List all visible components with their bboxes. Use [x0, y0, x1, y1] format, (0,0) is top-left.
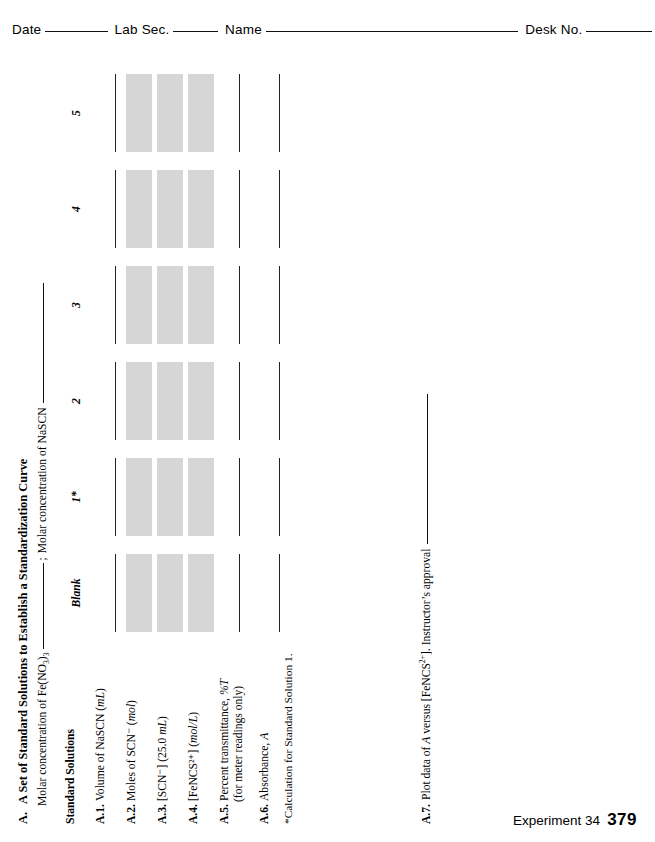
- cell-a2-1[interactable]: [126, 458, 152, 536]
- cell-a6-3[interactable]: [258, 266, 280, 344]
- nascn-label: Molar concentration of NaSCN: [36, 407, 49, 553]
- column-header-4: 4: [70, 170, 83, 248]
- standard-solutions-table: Standard Solutions Blank 1* 2 3 4 5 A.1.…: [64, 64, 292, 824]
- section-letter: A.: [16, 812, 30, 824]
- row-header-label: Standard Solutions: [64, 729, 78, 824]
- cell-a5-5[interactable]: [218, 74, 240, 152]
- section-title: A.A Set of Standard Solutions to Establi…: [16, 459, 31, 824]
- column-headers: Blank 1* 2 3 4 5: [64, 66, 94, 632]
- row-label-a6: A.6.Absorbance, A: [258, 733, 272, 824]
- student-info-row: Date Lab Sec. Name Desk No.: [12, 22, 652, 37]
- page-number: 379: [607, 810, 637, 830]
- lab-sec-label: Lab Sec.: [115, 22, 174, 37]
- cell-a2-5[interactable]: [126, 74, 152, 152]
- cell-a6-5[interactable]: [258, 74, 280, 152]
- cell-a3-5[interactable]: [157, 74, 183, 152]
- row-label-a2: A.2.Moles of SCN⁻ (mol): [125, 700, 139, 824]
- cell-a3-3[interactable]: [157, 266, 183, 344]
- cell-a6-blank[interactable]: [258, 554, 280, 632]
- cell-a4-3[interactable]: [188, 266, 214, 344]
- date-label: Date: [12, 22, 45, 37]
- row-label-a4: A.4.[FeNCS²⁺] (mol/L): [187, 712, 201, 824]
- cell-a2-blank[interactable]: [126, 554, 152, 632]
- table-header-row: Standard Solutions Blank 1* 2 3 4 5: [64, 64, 94, 824]
- name-input-blank[interactable]: [266, 31, 518, 32]
- column-header-5: 5: [70, 74, 83, 152]
- experiment-label: Experiment 34: [513, 813, 600, 828]
- cell-a4-2[interactable]: [188, 362, 214, 440]
- sub-separator: ;: [36, 557, 49, 560]
- cell-a5-4[interactable]: [218, 170, 240, 248]
- cell-a4-4[interactable]: [188, 170, 214, 248]
- desk-no-label: Desk No.: [525, 22, 586, 37]
- cell-a1-2[interactable]: [94, 362, 116, 440]
- row-cells-a6: [258, 66, 292, 632]
- cell-a1-4[interactable]: [94, 170, 116, 248]
- molar-concentration-line: Molar concentration of Fe(NO3)3 ; Molar …: [36, 283, 49, 806]
- cell-a3-4[interactable]: [157, 170, 183, 248]
- column-header-3: 3: [70, 266, 83, 344]
- row-cells-a3: [156, 66, 187, 632]
- cell-a2-2[interactable]: [126, 362, 152, 440]
- cell-a3-1[interactable]: [157, 458, 183, 536]
- row-label-a1: A.1.Volume of NaSCN (mL): [94, 688, 108, 824]
- item-a7-text: Plot data of A versus [FeNCS2+]. Instruc…: [420, 549, 433, 800]
- date-input-blank[interactable]: [45, 31, 107, 32]
- cell-a6-1[interactable]: [258, 458, 280, 536]
- column-header-1: 1*: [70, 458, 83, 536]
- cell-a6-4[interactable]: [258, 170, 280, 248]
- row-cells-a5: [218, 66, 258, 632]
- cell-a4-1[interactable]: [188, 458, 214, 536]
- table-row: A.5.Percent transmittance, %T (for meter…: [218, 64, 258, 824]
- page-header-strip: Date Lab Sec. Name Desk No.: [0, 0, 655, 48]
- cell-a2-4[interactable]: [126, 170, 152, 248]
- cell-a1-blank[interactable]: [94, 554, 116, 632]
- cell-a3-blank[interactable]: [157, 554, 183, 632]
- name-label: Name: [225, 22, 266, 37]
- row-label-a5-note: (for meter readings only): [232, 679, 246, 824]
- row-cells-a2: [125, 66, 156, 632]
- cell-a1-3[interactable]: [94, 266, 116, 344]
- section-title-text: A Set of Standard Solutions to Establish…: [16, 459, 30, 804]
- row-label-a5: A.5.Percent transmittance, %T (for meter…: [218, 679, 245, 824]
- cell-a2-3[interactable]: [126, 266, 152, 344]
- nascn-concentration-blank[interactable]: [43, 283, 44, 403]
- item-a7-number: A.7.: [420, 804, 433, 824]
- lab-sec-input-blank[interactable]: [173, 31, 218, 32]
- desk-no-input-blank[interactable]: [586, 31, 652, 32]
- cell-a3-2[interactable]: [157, 362, 183, 440]
- cell-a5-1[interactable]: [218, 458, 240, 536]
- row-cells-a1: [94, 66, 125, 632]
- row-label-a3: A.3.[SCN⁻] (25.0 mL): [156, 716, 170, 824]
- row-cells-a4: [187, 66, 218, 632]
- table-row: A.1.Volume of NaSCN (mL): [94, 64, 125, 824]
- table-footnote: *Calculation for Standard Solution 1.: [282, 653, 294, 824]
- page-footer: Experiment 34 379: [513, 810, 637, 830]
- rotated-worksheet-body: A.A Set of Standard Solutions to Establi…: [0, 48, 655, 842]
- column-header-blank: Blank: [70, 554, 83, 632]
- fe-concentration-blank[interactable]: [43, 563, 44, 649]
- cell-a6-2[interactable]: [258, 362, 280, 440]
- item-a7: A.7. Plot data of A versus [FeNCS2+]. In…: [420, 394, 433, 824]
- table-row: A.3.[SCN⁻] (25.0 mL): [156, 64, 187, 824]
- cell-a5-2[interactable]: [218, 362, 240, 440]
- cell-a4-5[interactable]: [188, 74, 214, 152]
- cell-a4-blank[interactable]: [188, 554, 214, 632]
- column-header-2: 2: [70, 362, 83, 440]
- cell-a5-blank[interactable]: [218, 554, 240, 632]
- cell-a5-3[interactable]: [218, 266, 240, 344]
- cell-a1-1[interactable]: [94, 458, 116, 536]
- cell-a1-5[interactable]: [94, 74, 116, 152]
- table-row: A.4.[FeNCS²⁺] (mol/L): [187, 64, 218, 824]
- fe-label: Molar concentration of Fe(NO3)3: [36, 652, 49, 806]
- instructor-approval-blank[interactable]: [427, 394, 428, 544]
- table-row: A.2.Moles of SCN⁻ (mol): [125, 64, 156, 824]
